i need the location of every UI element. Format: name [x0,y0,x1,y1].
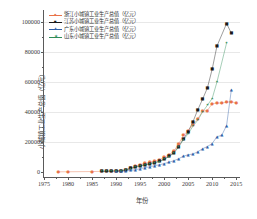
legend-swatch: ■ [49,18,62,25]
data-point: ✶ [196,118,199,122]
data-point: ✶ [177,145,180,149]
data-point: ▲ [167,160,170,164]
data-point: ✶ [129,167,132,171]
data-point: ● [225,100,229,104]
x-tick-label: 1985 [86,181,98,187]
x-axis-title: 年份 [43,196,240,205]
x-tick-label: 2010 [206,181,218,187]
data-point: ● [90,170,94,174]
data-point: ✶ [186,132,189,136]
data-point: ▲ [230,87,233,91]
data-point: ✶ [153,161,156,165]
data-point: ▲ [215,135,218,139]
data-point: ✶ [225,41,228,45]
data-point: ▲ [191,152,194,156]
data-point: ✶ [119,169,122,173]
legend-label: 江苏小城镇工业生产总值（亿元） [64,18,139,25]
data-point: ✶ [110,169,113,173]
data-point: ▲ [201,147,204,151]
data-point: ▲ [196,150,199,154]
data-point: ✶ [162,157,165,161]
data-point: ● [234,101,238,105]
y-tick-label: 100000 [22,19,40,25]
data-point: ■ [225,21,229,25]
data-point: ✶ [143,163,146,167]
data-point: ✶ [148,162,151,166]
data-point: ▲ [225,123,228,127]
data-point: ● [220,101,224,105]
y-tick-label: 40000 [25,109,40,115]
data-point: ✶ [215,80,218,84]
y-tick-label: 0 [37,169,40,175]
data-point: ▲ [163,162,166,166]
x-tick-label: 2000 [158,181,170,187]
data-point: ▲ [187,153,190,157]
data-point: ■ [196,108,200,112]
chart-legend: ●浙江小城镇工业生产总值（亿元）■江苏小城镇工业生产总值（亿元）▲广东小城镇工业… [49,11,139,40]
legend-label: 广东小城镇工业生产总值（亿元） [64,26,139,33]
data-point: ▲ [220,133,223,137]
data-point: ✶ [124,168,127,172]
data-point: ▲ [211,141,214,145]
data-point: ✶ [167,155,170,159]
legend-item[interactable]: ▲广东小城镇工业生产总值（亿元） [49,26,139,33]
data-point: ✶ [172,151,175,155]
data-point: ■ [201,97,205,101]
legend-swatch: ▲ [49,26,62,33]
data-point: ● [230,99,234,103]
data-point: ✶ [201,110,204,114]
x-tick-label: 1975 [38,181,50,187]
data-point: ✶ [206,103,209,107]
data-point: ✶ [191,124,194,128]
x-tick-label: 2005 [182,181,194,187]
x-tick-label: 2015 [230,181,242,187]
data-point: ✶ [134,165,137,169]
chart-figure: 小城镇工业生产总值（亿元） 年份 02000040000600008000010… [0,0,257,219]
data-point: ● [57,170,61,174]
data-point: ■ [210,67,214,71]
data-point: ● [215,101,219,105]
data-point: ▲ [177,157,180,161]
legend-label: 山东小城镇工业生产总值（亿元） [64,33,139,40]
data-point: ■ [215,44,219,48]
legend-swatch: ✶ [49,33,62,40]
x-tick-label: 1995 [134,181,146,187]
legend-item[interactable]: ✶山东小城镇工业生产总值（亿元） [49,33,139,40]
data-point: ✶ [105,169,108,173]
data-point: ✶ [114,169,117,173]
y-tick-label: 60000 [25,79,40,85]
data-point: ● [206,108,210,112]
data-point: ▲ [182,154,185,158]
data-point: ✶ [100,169,103,173]
data-point: ✶ [138,164,141,168]
data-point: ■ [229,31,233,35]
legend-item[interactable]: ■江苏小城镇工业生产总值（亿元） [49,18,139,25]
x-tick-label: 1980 [62,181,74,187]
x-tick-label: 1990 [110,181,122,187]
data-point: ▲ [172,159,175,163]
data-point: ▲ [206,144,209,148]
data-point: ■ [205,86,209,90]
legend-swatch: ● [49,11,62,18]
data-point: ✶ [182,138,185,142]
y-tick-label: 80000 [25,49,40,55]
data-point: ✶ [210,96,213,100]
data-point: ● [210,102,214,106]
data-point: ✶ [158,159,161,163]
y-tick-label: 20000 [25,139,40,145]
data-point: ● [66,170,70,174]
